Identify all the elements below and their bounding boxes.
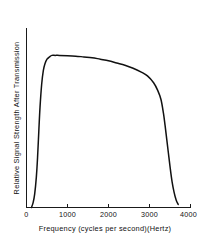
chart-figure: 0 1000 2000 3000 4000 Frequency (cycles … [0, 0, 198, 247]
y-axis-title: Relative Signal Strength After Transmiss… [12, 42, 21, 195]
x-tick-label-2000: 2000 [100, 210, 117, 219]
x-tick-label-3000: 3000 [141, 210, 158, 219]
x-tick-label-4000: 4000 [180, 210, 197, 219]
x-tick-label-0: 0 [24, 210, 28, 219]
x-tick-label-1000: 1000 [59, 210, 76, 219]
frequency-response-chart: 0 1000 2000 3000 4000 Frequency (cycles … [0, 0, 198, 247]
x-axis-title: Frequency (cycles per second)(Hertz) [39, 224, 172, 233]
